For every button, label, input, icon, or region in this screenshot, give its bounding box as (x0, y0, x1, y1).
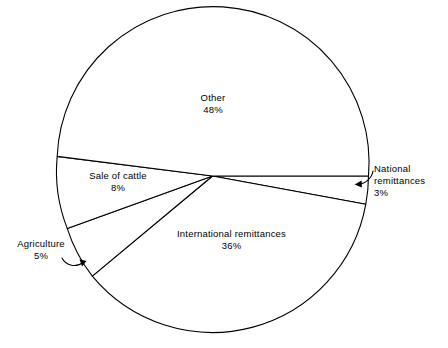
pie-label-agriculture: Agriculture 5% (2, 238, 80, 262)
pie-label-international-remittances-value: 36% (149, 240, 314, 252)
pie-label-other-name: Other (161, 92, 265, 104)
pie-label-sale-of-cattle-name: Sale of cattle (62, 170, 174, 182)
pie-label-national-remittances-name-line2: remittances (374, 175, 446, 187)
pie-label-other-value: 48% (161, 104, 265, 116)
pie-label-international-remittances-name: International remittances (149, 228, 314, 240)
pie-label-sale-of-cattle: Sale of cattle 8% (62, 170, 174, 194)
pie-label-national-remittances: National remittances 3% (374, 163, 446, 199)
pie-label-other: Other 48% (161, 92, 265, 116)
pie-label-national-remittances-value: 3% (374, 187, 446, 199)
pie-label-agriculture-value: 5% (2, 250, 80, 262)
pie-label-sale-of-cattle-value: 8% (62, 182, 174, 194)
pie-chart: Other 48% Sale of cattle 8% Internationa… (0, 0, 448, 348)
pie-label-international-remittances: International remittances 36% (149, 228, 314, 252)
pie-label-national-remittances-name-line1: National (374, 163, 446, 175)
pie-label-agriculture-name: Agriculture (2, 238, 80, 250)
